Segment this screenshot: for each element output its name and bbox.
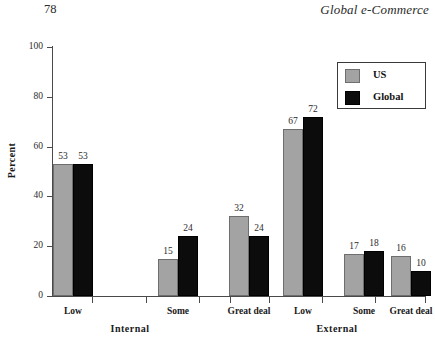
chart-legend: USGlobal — [337, 62, 426, 109]
bar-internal-low-global — [73, 164, 93, 296]
x-axis-tick — [425, 297, 426, 303]
bar-value-label: 53 — [70, 152, 96, 162]
bar-value-label: 24 — [246, 224, 272, 234]
x-axis-category-label: Some — [143, 306, 213, 316]
y-axis-tick-label: 60 — [3, 142, 43, 152]
x-axis-tick — [146, 297, 147, 303]
bar-internal-some-us — [158, 259, 178, 296]
x-axis-line — [52, 296, 426, 297]
x-axis-tick — [92, 297, 93, 303]
x-axis-category-label: Great deal — [376, 306, 435, 316]
bar-value-label: 72 — [300, 105, 326, 115]
legend-swatch-icon — [345, 69, 360, 83]
bar-external-low-global — [303, 117, 323, 296]
y-axis-tick-label: 20 — [3, 241, 43, 251]
x-axis-group-label: Internal — [80, 323, 180, 334]
x-axis-group-label: External — [287, 323, 387, 334]
y-axis-tick — [47, 97, 53, 98]
bar-value-label: 24 — [175, 224, 201, 234]
bar-value-label: 10 — [408, 259, 434, 269]
bar-internal-low-us — [53, 164, 73, 296]
y-axis-tick — [47, 147, 53, 148]
bar-internal-great-deal-global — [249, 236, 269, 296]
y-axis-title: Percent — [6, 126, 17, 196]
bar-external-low-us — [283, 129, 303, 296]
x-axis-tick — [230, 297, 231, 303]
y-axis-tick — [47, 47, 53, 48]
y-axis-tick-label: 80 — [3, 92, 43, 102]
bar-external-great-deal-global — [411, 271, 431, 296]
y-axis-tick — [47, 296, 53, 297]
y-axis-tick-label: 100 — [3, 42, 43, 52]
bar-external-some-global — [364, 251, 384, 296]
bar-value-label: 18 — [361, 239, 387, 249]
legend-swatch-icon — [345, 91, 360, 105]
bar-value-label: 32 — [226, 204, 252, 214]
bar-external-some-us — [344, 254, 364, 296]
y-axis-tick-label: 0 — [3, 291, 43, 301]
y-axis-tick-label: 40 — [3, 191, 43, 201]
bar-internal-some-global — [178, 236, 198, 296]
legend-label: US — [373, 69, 386, 80]
x-axis-tick — [269, 297, 270, 303]
bar-chart: Percent 020406080100 5353152432246772171… — [0, 0, 435, 345]
bar-value-label: 16 — [388, 244, 414, 254]
x-axis-tick — [375, 297, 376, 303]
legend-label: Global — [373, 91, 403, 102]
x-axis-tick — [322, 297, 323, 303]
x-axis-tick — [199, 297, 200, 303]
x-axis-category-label: Low — [38, 306, 108, 316]
x-axis-category-label: Low — [268, 306, 338, 316]
